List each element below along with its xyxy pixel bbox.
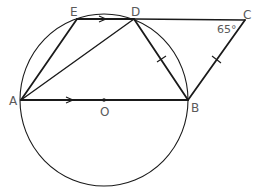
label-a: A [9,94,18,108]
label-b: B [191,101,199,115]
segment-ad [21,19,134,100]
label-e: E [70,5,78,19]
segment-dc [134,19,245,20]
label-d: D [131,5,140,19]
label-c: C [243,8,251,22]
geometry-diagram: E D C 65° A O B [0,0,256,188]
angle-label-c: 65° [217,23,237,36]
center-point-o [102,98,106,102]
label-o: O [100,105,109,119]
